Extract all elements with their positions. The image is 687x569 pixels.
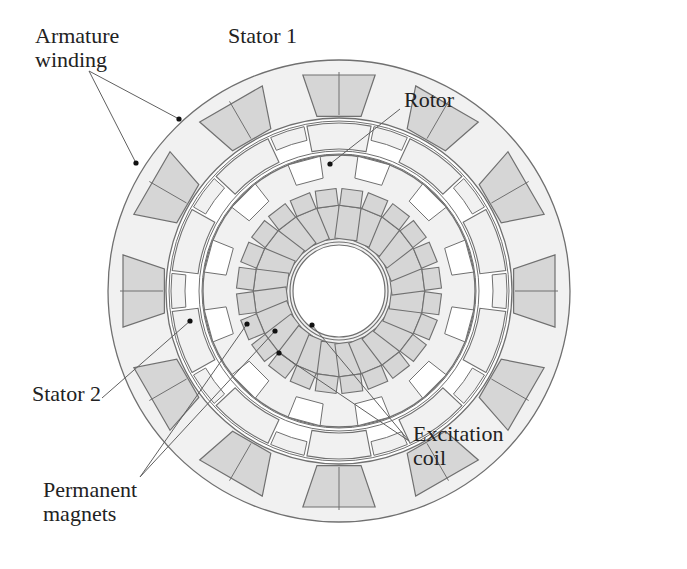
- leader-armature-winding: [89, 71, 179, 119]
- rotor-segment-outer: [492, 273, 507, 308]
- leader-dot: [244, 321, 249, 326]
- label-armature-winding: Armature winding: [35, 24, 119, 72]
- permanent-magnet: [422, 292, 442, 315]
- permanent-magnet: [237, 267, 257, 290]
- permanent-magnet: [422, 267, 442, 290]
- permanent-magnet: [315, 189, 338, 209]
- excitation-coil: [335, 205, 361, 241]
- leader-dot: [133, 160, 138, 165]
- leader-dot: [309, 322, 314, 327]
- permanent-magnet: [237, 292, 257, 315]
- label-rotor: Rotor: [404, 88, 454, 112]
- permanent-magnet: [340, 189, 363, 209]
- label-permanent-magnets: Permanent magnets: [43, 478, 137, 526]
- permanent-magnet: [340, 374, 363, 394]
- label-stator-1: Stator 1: [228, 24, 297, 48]
- rotor-segment: [307, 123, 371, 152]
- label-stator-2: Stator 2: [32, 382, 101, 406]
- rotor-segment-outer: [171, 273, 186, 308]
- leader-dot: [327, 161, 332, 166]
- leader-dot: [187, 318, 192, 323]
- stator-2-body: [203, 155, 475, 427]
- leader-dot: [176, 116, 181, 121]
- leader-armature-winding: [89, 71, 136, 163]
- leader-dot: [276, 350, 281, 355]
- label-excitation-coil: Excitation coil: [413, 422, 503, 470]
- leader-dot: [272, 328, 277, 333]
- rotor-segment: [307, 430, 371, 459]
